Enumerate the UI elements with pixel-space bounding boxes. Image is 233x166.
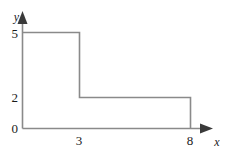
y-axis-label: y bbox=[14, 11, 19, 23]
step-function-figure: y 5 2 0 3 8 x bbox=[0, 0, 233, 166]
x-tick-label-8: 8 bbox=[187, 134, 194, 147]
x-axis-arrow-icon bbox=[200, 124, 213, 134]
x-axis-label: x bbox=[214, 136, 219, 148]
y-tick-label-2: 2 bbox=[12, 91, 19, 104]
step-function-curve bbox=[23, 33, 191, 129]
x-tick-label-3: 3 bbox=[76, 134, 83, 147]
y-tick-label-0: 0 bbox=[12, 122, 19, 135]
y-tick-label-5: 5 bbox=[12, 27, 19, 40]
y-axis-arrow-icon bbox=[18, 11, 28, 24]
plot-canvas bbox=[0, 0, 233, 166]
